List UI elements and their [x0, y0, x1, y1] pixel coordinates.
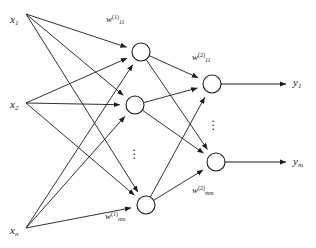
input-label-x1: x1: [10, 14, 18, 27]
hidden-layer-ellipsis: ···: [132, 148, 136, 160]
edges-hidden-to-output: [142, 56, 207, 201]
output-node-o1: [203, 75, 221, 93]
output-node-om: [207, 153, 225, 171]
input-label-x2: x2: [10, 99, 18, 112]
output-label-ym: ym: [293, 156, 303, 169]
hidden-node-h1: [132, 43, 150, 61]
weight-label-w11-layer2: w(2)11: [192, 52, 211, 63]
output-label-y1: y1: [293, 77, 301, 90]
hidden-node-h2: [126, 96, 144, 114]
neural-network-diagram: [0, 0, 316, 248]
edges-output-arrows: [221, 84, 286, 162]
input-label-xn: xn: [10, 225, 18, 238]
output-layer-ellipsis: ···: [211, 119, 215, 131]
weight-label-wmm-layer2: w(2)mm: [192, 185, 214, 196]
weight-label-w11-layer1: w(1)11: [106, 14, 125, 25]
weight-label-wnm-layer1: w(1)nm: [105, 211, 125, 222]
edges-input-to-hidden: [26, 14, 138, 228]
hidden-node-hm: [137, 196, 155, 214]
